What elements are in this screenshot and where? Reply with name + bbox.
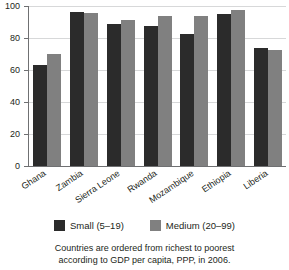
y-tick-label-20: 20 [10, 130, 20, 139]
y-tick-label-40: 40 [10, 98, 20, 107]
bar-ghana-medium[interactable] [47, 54, 61, 166]
bar-liberia-small[interactable] [254, 48, 268, 166]
plot-area [28, 6, 286, 167]
bar-rwanda-medium[interactable] [158, 16, 172, 166]
bar-ethiopia-medium[interactable] [231, 10, 245, 166]
legend-item-medium[interactable]: Medium (20–99) [150, 220, 235, 231]
plot-wrapper: 020406080100 GhanaZambiaSierra LeoneRwan… [0, 0, 289, 172]
x-tick-label-ghana: Ghana [20, 168, 48, 191]
bar-group [249, 6, 286, 166]
bar-chart-figure: 020406080100 GhanaZambiaSierra LeoneRwan… [0, 0, 289, 270]
legend-swatch-medium [150, 220, 161, 231]
bar-zambia-small[interactable] [70, 12, 84, 166]
legend-label-small: Small (5–19) [70, 220, 124, 231]
y-tick-label-0: 0 [15, 162, 20, 171]
bar-groups [29, 6, 286, 166]
x-tick-label-liberia: Liberia [241, 168, 269, 191]
bar-ghana-small[interactable] [33, 65, 47, 166]
bar-group [213, 6, 250, 166]
caption-line-1: Countries are ordered from richest to po… [12, 243, 277, 255]
x-tick-label-rwanda: Rwanda [126, 168, 159, 195]
bar-sierra-leone-small[interactable] [107, 24, 121, 166]
y-tick-label-80: 80 [10, 34, 20, 43]
bar-mozambique-small[interactable] [180, 34, 194, 166]
caption-line-2: according to GDP per capita, PPP, in 200… [12, 255, 277, 267]
bar-group [102, 6, 139, 166]
x-tick-label-zambia: Zambia [54, 168, 84, 193]
y-tick-label-60: 60 [10, 66, 20, 75]
bar-mozambique-medium[interactable] [194, 16, 208, 166]
bar-sierra-leone-medium[interactable] [121, 20, 135, 166]
bar-group [176, 6, 213, 166]
x-axis: GhanaZambiaSierra LeoneRwandaMozambiqueE… [28, 168, 286, 220]
bar-ethiopia-small[interactable] [217, 14, 231, 166]
legend-item-small[interactable]: Small (5–19) [54, 220, 124, 231]
y-tick-label-100: 100 [5, 2, 20, 11]
bar-group [29, 6, 66, 166]
bar-rwanda-small[interactable] [144, 26, 158, 166]
legend-swatch-small [54, 220, 65, 231]
bar-group [139, 6, 176, 166]
legend-label-medium: Medium (20–99) [166, 220, 235, 231]
chart-legend: Small (5–19)Medium (20–99) [0, 220, 289, 231]
y-axis: 020406080100 [0, 0, 24, 172]
bar-zambia-medium[interactable] [84, 13, 98, 166]
bar-group [66, 6, 103, 166]
x-tick-label-ethiopia: Ethiopia [200, 168, 233, 194]
chart-caption: Countries are ordered from richest to po… [0, 243, 289, 266]
bar-liberia-medium[interactable] [268, 50, 282, 166]
